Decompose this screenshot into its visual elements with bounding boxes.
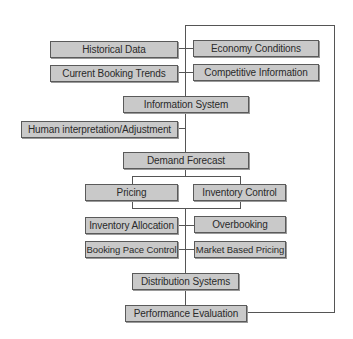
node-performance-evaluation: Performance Evaluation: [125, 305, 247, 322]
node-pricing: Pricing: [85, 184, 178, 201]
main-spine-top: [185, 25, 186, 96]
connector-row1: [178, 48, 194, 49]
node-inventory-allocation: Inventory Allocation: [85, 217, 178, 234]
connector-human: [178, 128, 186, 129]
bracket-top: [132, 176, 241, 177]
connector-row3: [178, 225, 194, 226]
spine-lower: [185, 208, 186, 274]
node-current-booking-trends: Current Booking Trends: [50, 65, 178, 82]
node-human-interpretation: Human interpretation/Adjustment: [21, 121, 178, 138]
spine-dist-to-perf: [185, 289, 186, 305]
node-economy-conditions: Economy Conditions: [193, 40, 319, 57]
node-market-based-pricing: Market Based Pricing: [194, 241, 286, 258]
bracket-bottom: [132, 208, 241, 209]
bracket-bottom-right: [240, 200, 241, 209]
feedback-right-line: [334, 25, 335, 313]
spine-info-to-forecast: [185, 113, 186, 153]
node-competitive-information: Competitive Information: [193, 64, 319, 81]
node-distribution-systems: Distribution Systems: [132, 273, 239, 290]
connector-row4: [178, 249, 194, 250]
feedback-bottom-line: [247, 312, 335, 313]
node-information-system: Information System: [123, 96, 249, 113]
feedback-top-line: [185, 25, 335, 26]
connector-row2: [178, 72, 194, 73]
node-historical-data: Historical Data: [50, 41, 178, 58]
node-overbooking: Overbooking: [194, 216, 286, 233]
node-booking-pace-control: Booking Pace Control: [85, 241, 178, 258]
bracket-bottom-left: [132, 200, 133, 209]
node-inventory-control: Inventory Control: [193, 184, 286, 201]
node-demand-forecast: Demand Forecast: [123, 152, 249, 169]
